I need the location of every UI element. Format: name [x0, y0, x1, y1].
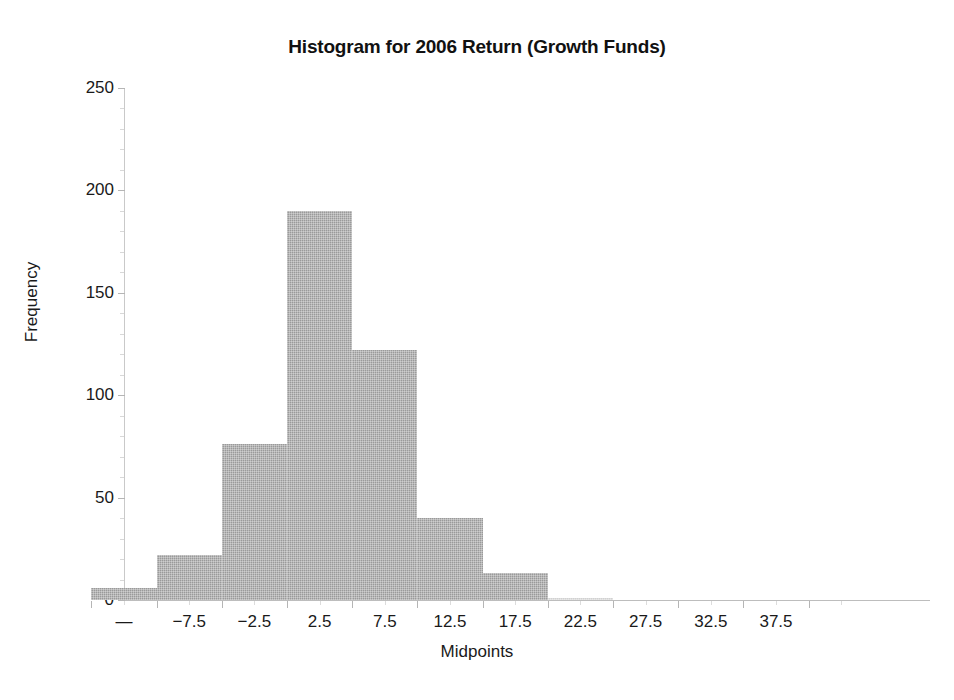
x-axis-tick	[287, 601, 288, 608]
x-axis-minor-tick	[124, 601, 125, 605]
y-axis-minor-tick	[120, 108, 124, 109]
x-axis-tick	[743, 601, 744, 608]
histogram-bar	[417, 518, 482, 600]
y-axis-tick-label: 100	[44, 385, 114, 405]
y-axis-minor-tick	[120, 559, 124, 560]
histogram-bar	[352, 350, 417, 600]
y-axis-minor-tick	[120, 170, 124, 171]
x-axis-minor-tick	[776, 601, 777, 605]
y-axis-minor-tick	[120, 518, 124, 519]
x-axis-minor-tick	[254, 601, 255, 605]
y-axis-minor-tick	[120, 375, 124, 376]
histogram-figure: Histogram for 2006 Return (Growth Funds)…	[0, 0, 954, 700]
x-axis-tick	[678, 601, 679, 608]
x-axis-tick	[809, 601, 810, 608]
y-axis-minor-tick	[120, 272, 124, 273]
x-axis-minor-tick	[580, 601, 581, 605]
x-axis-tick	[483, 601, 484, 608]
y-axis-minor-tick	[120, 436, 124, 437]
y-axis-minor-tick	[120, 457, 124, 458]
histogram-bar	[222, 444, 287, 600]
y-axis-tick	[118, 190, 125, 191]
y-axis-tick	[118, 498, 125, 499]
x-axis-title: Midpoints	[0, 642, 954, 662]
y-axis-minor-tick	[120, 334, 124, 335]
y-axis-tick	[118, 395, 125, 396]
y-axis-minor-tick	[120, 477, 124, 478]
plot-area	[124, 88, 930, 600]
y-axis-minor-tick	[120, 149, 124, 150]
y-axis-minor-tick	[120, 416, 124, 417]
x-axis-tick	[548, 601, 549, 608]
histogram-bar	[483, 573, 548, 600]
y-axis-minor-tick	[120, 313, 124, 314]
x-axis-minor-tick	[189, 601, 190, 605]
x-axis-tick	[352, 601, 353, 608]
histogram-bar	[157, 555, 222, 600]
x-axis-tick	[222, 601, 223, 608]
y-axis-minor-tick	[120, 211, 124, 212]
histogram-bar	[548, 598, 613, 600]
x-axis-tick-label: 37.5	[736, 612, 816, 632]
x-axis-minor-tick	[385, 601, 386, 605]
histogram-bar	[91, 588, 156, 600]
y-axis-tick	[118, 88, 125, 89]
x-axis-minor-tick	[320, 601, 321, 605]
page-title: Histogram for 2006 Return (Growth Funds)	[0, 36, 954, 58]
y-axis-tick-label: 200	[44, 180, 114, 200]
y-axis-minor-tick	[120, 231, 124, 232]
x-axis-minor-tick	[841, 601, 842, 605]
x-axis-minor-tick	[711, 601, 712, 605]
histogram-bar	[287, 211, 352, 600]
x-axis-minor-tick	[450, 601, 451, 605]
y-axis-title: Frequency	[22, 222, 42, 382]
x-axis-minor-tick	[515, 601, 516, 605]
y-axis-tick-label: 50	[44, 488, 114, 508]
x-axis-tick	[157, 601, 158, 608]
x-axis-tick	[417, 601, 418, 608]
x-axis-tick	[613, 601, 614, 608]
y-axis-tick-label: 150	[44, 283, 114, 303]
y-axis-tick-label: 250	[44, 78, 114, 98]
y-axis-minor-tick	[120, 539, 124, 540]
x-axis-minor-tick	[646, 601, 647, 605]
x-axis-tick	[91, 601, 92, 608]
y-axis-minor-tick	[120, 129, 124, 130]
y-axis-minor-tick	[120, 252, 124, 253]
y-axis-minor-tick	[120, 580, 124, 581]
y-axis-minor-tick	[120, 354, 124, 355]
y-axis-tick	[118, 293, 125, 294]
